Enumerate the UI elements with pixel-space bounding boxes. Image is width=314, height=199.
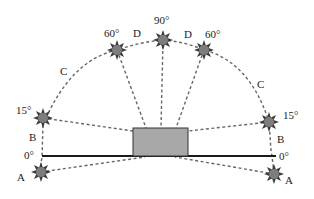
ray-b-right <box>188 122 269 131</box>
label-zone-b-right: B <box>277 133 284 145</box>
label-zone-a-left: A <box>17 171 25 183</box>
sun-icon <box>264 164 284 184</box>
sun-icon <box>153 30 173 50</box>
label-angle-60-left: 60° <box>104 27 119 39</box>
sun-core <box>199 45 209 55</box>
sun-core <box>112 45 122 55</box>
ray-a-right <box>175 157 274 174</box>
label-zone-a-right: A <box>285 174 293 186</box>
ray-b-left <box>43 118 133 131</box>
sun-core <box>38 113 48 123</box>
sun-core <box>264 117 274 127</box>
label-angle-15-left: 15° <box>16 104 31 116</box>
label-zone-c-right: C <box>257 78 264 90</box>
suns-group <box>31 30 284 184</box>
label-angle-60-right: 60° <box>205 28 220 40</box>
ray-a-left <box>41 157 145 172</box>
label-angle-0-right: 0° <box>279 150 289 162</box>
building <box>133 128 188 156</box>
sun-icon <box>259 112 279 132</box>
label-angle-90: 90° <box>154 14 169 26</box>
sun-icon <box>33 108 53 128</box>
sun-icon <box>107 40 127 60</box>
label-zone-d-left: D <box>133 27 141 39</box>
label-angle-15-right: 15° <box>283 109 298 121</box>
diagram-canvas: 60° D 90° D 60° C C 15° B 0° A 15° B 0° … <box>0 0 314 199</box>
sun-core <box>36 167 46 177</box>
sun-core <box>158 35 168 45</box>
label-zone-b-left: B <box>29 131 36 143</box>
label-zone-d-right: D <box>184 28 192 40</box>
sun-icon <box>194 40 214 60</box>
ray-60-right <box>176 50 204 128</box>
sun-icon <box>31 162 51 182</box>
sun-core <box>269 169 279 179</box>
label-zone-c-left: C <box>60 65 67 77</box>
sun-angle-diagram: 60° D 90° D 60° C C 15° B 0° A 15° B 0° … <box>0 0 314 199</box>
ray-60-left <box>117 50 146 128</box>
ray-90 <box>161 40 163 128</box>
label-angle-0-left: 0° <box>24 149 34 161</box>
